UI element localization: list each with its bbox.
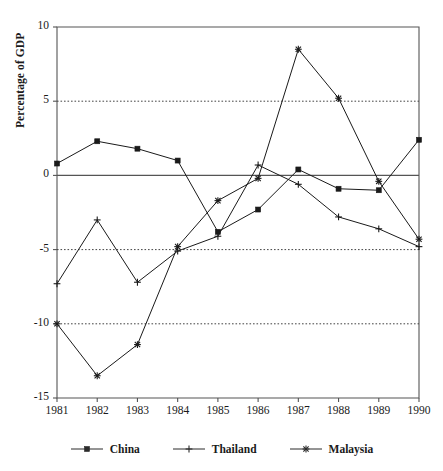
y-tick-label: 0: [15, 167, 49, 179]
x-tick-label: 1990: [396, 404, 442, 416]
y-tick-label: -10: [15, 316, 49, 328]
legend-label: Thailand: [212, 443, 257, 455]
y-tick-label: -15: [15, 390, 49, 402]
x-tick-label: 1987: [275, 404, 321, 416]
series-markers-thailand: [54, 162, 423, 288]
legend-item-malaysia[interactable]: Malaysia: [289, 442, 374, 456]
y-tick-label: -5: [15, 242, 49, 254]
series-line-china: [57, 140, 419, 232]
series-line-thailand: [57, 165, 419, 284]
legend-label: Malaysia: [329, 443, 374, 455]
square-marker-icon: [70, 442, 104, 456]
x-tick-label: 1981: [34, 404, 80, 416]
legend-label: China: [110, 443, 140, 455]
x-tick-label: 1984: [155, 404, 201, 416]
x-tick-label: 1989: [356, 404, 402, 416]
chart-legend: ChinaThailandMalaysia: [0, 437, 443, 461]
y-tick-label: 10: [15, 19, 49, 31]
x-tick-label: 1982: [74, 404, 120, 416]
legend-item-china[interactable]: China: [70, 442, 140, 456]
x-tick-label: 1988: [316, 404, 362, 416]
legend-item-thailand[interactable]: Thailand: [172, 442, 257, 456]
x-tick-label: 1985: [195, 404, 241, 416]
asterisk-marker-icon: [289, 442, 323, 456]
chart-page: Percentage of GDP 1050-5-10-15 198119821…: [0, 0, 443, 471]
x-tick-label: 1986: [235, 404, 281, 416]
line-chart: [0, 0, 443, 471]
series-markers-malaysia: [54, 46, 423, 379]
series-markers-china: [55, 137, 422, 234]
plus-marker-icon: [172, 442, 206, 456]
series-line-malaysia: [57, 49, 419, 375]
y-tick-label: 5: [15, 93, 49, 105]
x-tick-label: 1983: [114, 404, 160, 416]
